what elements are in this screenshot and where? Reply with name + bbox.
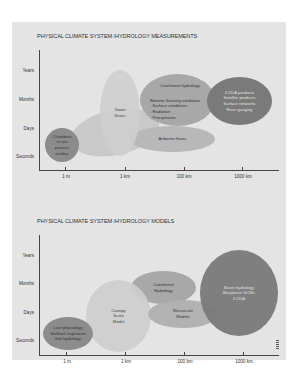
leaf-physiology-bubble: Leaf physiology Soil/leaf respiration So… (43, 317, 93, 350)
x-tick (243, 352, 244, 355)
y-tick-label: Months (4, 281, 34, 286)
x-tick (65, 167, 66, 170)
y-tick-label: Days (4, 126, 34, 131)
x-tick-label: 1000 km (228, 174, 258, 179)
dda-products-bubble: 4 DDA products Satellite products Surfac… (207, 77, 272, 125)
x-tick-label: 100 km (170, 359, 200, 364)
y-tick-label: Years (4, 68, 34, 73)
y-tick-label: Days (4, 310, 34, 315)
x-tick-label: 1 km (111, 359, 141, 364)
chambers-bubble: Chambers in situ process studies (45, 128, 79, 162)
x-tick (125, 352, 126, 355)
x-tick (66, 352, 67, 355)
x-axis (39, 355, 279, 356)
airborne-fluxes-bubble: Airborne fluxes (130, 126, 215, 152)
y-tick-label: Months (4, 97, 34, 102)
models-chart: PHYSICAL CLIMATE SYSTEM /HYDROLOGY MODEL… (0, 190, 295, 380)
y-tick-label: Years (4, 253, 34, 258)
x-axis (39, 170, 279, 171)
figure-code-mark (276, 340, 279, 350)
chart-title: PHYSICAL CLIMATE SYSTEM /HYDROLOGY MODEL… (37, 218, 174, 224)
x-tick-label: 1 km (110, 174, 140, 179)
y-tick-label: Seconds (4, 154, 34, 159)
y-axis (39, 235, 40, 355)
measurements-chart: PHYSICAL CLIMATE SYSTEM /HYDROLOGY MEASU… (0, 0, 295, 190)
x-tick-label: 100 km (169, 174, 199, 179)
chart-title: PHYSICAL CLIMATE SYSTEM /HYDROLOGY MEASU… (37, 33, 197, 39)
x-tick (184, 352, 185, 355)
x-tick-label: 1000 km (229, 359, 259, 364)
x-tick (184, 167, 185, 170)
y-axis (39, 50, 40, 170)
x-tick (125, 167, 126, 170)
tower-fluxes-bubble: Tower fluxes (100, 70, 140, 156)
canopy-scale-model-bubble: Canopy Scale Model (86, 280, 151, 352)
y-tick-label: Seconds (4, 338, 34, 343)
catchment-hydrology-label: Catchment hydrology (150, 80, 210, 92)
basin-hydrology-bubble: Basin hydrology Biosphere GCMs 4 DDA (200, 250, 278, 336)
x-tick-label: 1 m (51, 174, 81, 179)
x-tick-label: 1 m (52, 359, 82, 364)
x-tick (242, 167, 243, 170)
